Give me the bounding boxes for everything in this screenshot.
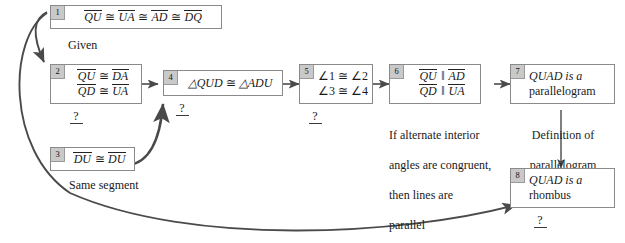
justification-line-4: parallel (389, 218, 491, 233)
step-4-justification-blank[interactable]: ? (172, 102, 192, 116)
step-number-2: 2 (51, 65, 65, 79)
congruent-symbol: ≅ (95, 152, 105, 166)
step-1-statement: QU ≅ UA ≅ AD ≅ DQ (65, 10, 221, 25)
angle-1: ∠1 (318, 69, 335, 83)
proof-step-7-box[interactable]: 7 QUAD is a parallelogram (510, 64, 615, 104)
segment-qd: QD (77, 84, 95, 98)
step-1-justification: Given (68, 38, 97, 53)
step-7-statement: QUAD is a parallelogram (525, 69, 614, 99)
step-4-statement: △QUD ≅ △ADU (178, 76, 282, 91)
step-number-4: 4 (164, 71, 178, 85)
justification-line-3: then lines are (389, 188, 491, 203)
triangle-qud: △QUD (188, 76, 223, 90)
step-3-justification: Same segment (69, 178, 139, 193)
unknown-mark: ? (530, 214, 550, 226)
proof-step-1-box[interactable]: 1 QU ≅ UA ≅ AD ≅ DQ (50, 5, 222, 29)
angle-4: ∠4 (351, 84, 368, 98)
segment-ua: UA (448, 84, 465, 98)
blank-rule (70, 123, 83, 124)
step-8-line-2: rhombus (529, 188, 610, 203)
congruent-symbol: ≅ (171, 10, 181, 24)
segment-du: DU (108, 152, 126, 166)
parallel-symbol: ‖ (440, 84, 445, 98)
segment-qd: QD (419, 84, 437, 98)
unknown-mark: ? (305, 110, 325, 122)
step-number-7: 7 (511, 65, 525, 79)
proof-step-2-box[interactable]: 2 QU ≅ DA QD ≅ UA (50, 64, 142, 104)
segment-qu: QU (84, 10, 102, 24)
proof-step-4-box[interactable]: 4 △QUD ≅ △ADU (163, 70, 283, 96)
unknown-mark: ? (66, 110, 86, 122)
step-number-5: 5 (300, 65, 314, 79)
step-number-1: 1 (51, 6, 65, 20)
segment-ua: UA (112, 84, 129, 98)
angle-2: ∠2 (351, 69, 368, 83)
step-3-statement: DU ≅ DU (65, 152, 134, 167)
segment-qu: QU (77, 69, 95, 83)
step-number-8: 8 (511, 169, 525, 183)
step-8-justification-blank[interactable]: ? (530, 214, 550, 228)
step-7-line-1: QUAD is a (529, 69, 610, 84)
unknown-mark: ? (172, 102, 192, 114)
congruent-symbol: ≅ (99, 84, 109, 98)
blank-rule (176, 115, 189, 116)
step-number-6: 6 (390, 65, 404, 79)
segment-ua: UA (118, 10, 135, 24)
segment-qu: QU (419, 69, 437, 83)
blank-rule (309, 123, 322, 124)
congruent-symbol: ≅ (138, 10, 148, 24)
justification-line-1: If alternate interior (389, 128, 491, 143)
congruent-symbol: ≅ (226, 76, 236, 90)
congruent-symbol: ≅ (338, 84, 348, 98)
step-8-line-1: QUAD is a (529, 173, 610, 188)
step-5-statement: ∠1 ≅ ∠2 ∠3 ≅ ∠4 (314, 69, 372, 99)
flow-proof-diagram: 1 QU ≅ UA ≅ AD ≅ DQ Given 2 QU ≅ DA QD (0, 0, 625, 243)
segment-ad: AD (448, 69, 465, 83)
congruent-symbol: ≅ (338, 69, 348, 83)
triangle-adu: △ADU (239, 76, 273, 90)
step-8-statement: QUAD is a rhombus (525, 173, 614, 203)
step-number-3: 3 (51, 148, 65, 162)
proof-step-6-box[interactable]: 6 QU ‖ AD QD ‖ UA (389, 64, 481, 104)
justification-line-1: Definition of (512, 128, 614, 143)
congruent-symbol: ≅ (105, 10, 115, 24)
step-5-justification-blank[interactable]: ? (305, 110, 325, 124)
blank-rule (534, 227, 547, 228)
justification-line-2: angles are congruent, (389, 158, 491, 173)
segment-ad: AD (151, 10, 168, 24)
proof-step-8-box[interactable]: 8 QUAD is a rhombus (510, 168, 615, 208)
step-2-statement: QU ≅ DA QD ≅ UA (65, 69, 141, 99)
proof-step-5-box[interactable]: 5 ∠1 ≅ ∠2 ∠3 ≅ ∠4 (299, 64, 373, 104)
arrow-step1-to-step2 (35, 12, 47, 62)
congruent-symbol: ≅ (99, 69, 109, 83)
step-2-justification-blank[interactable]: ? (66, 110, 86, 124)
angle-3: ∠3 (318, 84, 335, 98)
proof-step-3-box[interactable]: 3 DU ≅ DU (50, 147, 135, 171)
segment-dq: DQ (184, 10, 202, 24)
segment-da: DA (112, 69, 129, 83)
step-7-line-2: parallelogram (529, 84, 610, 99)
segment-du: DU (73, 152, 91, 166)
step-6-justification: If alternate interior angles are congrue… (389, 113, 491, 243)
parallel-symbol: ‖ (440, 69, 445, 83)
step-6-statement: QU ‖ AD QD ‖ UA (404, 69, 480, 99)
